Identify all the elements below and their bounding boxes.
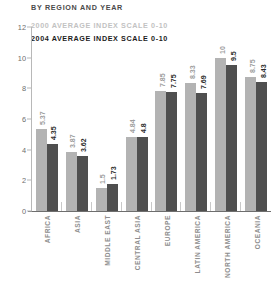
x-axis-category-label: AFRICA [44,215,51,243]
x-axis-category-label: NORTH AMERICA [224,215,231,278]
bar-value-label: 8.75 [248,59,255,73]
bar-2004[interactable]: 3.62 [77,156,88,212]
bar-value-label: 7.75 [169,75,176,89]
bar-group: 3.873.62 [62,27,92,211]
y-axis-tick-label: 10 [0,53,26,62]
bar-group: 8.758.43 [241,27,271,211]
bar-2000[interactable]: 8.33 [185,83,196,211]
x-axis-category: CENTRAL ASIA [122,213,152,289]
bar-value-label: 4.84 [129,119,136,133]
bar-value-label: 7.69 [199,75,206,89]
bar-2004[interactable]: 4.8 [137,137,148,211]
bar-group: 7.857.75 [152,27,182,211]
y-axis-tick-label: 2 [0,176,26,185]
bar-2000[interactable]: 8.75 [245,77,256,211]
bar-2000[interactable]: 7.85 [155,91,166,211]
y-axis-tick-label: 0 [0,207,26,216]
x-axis-category-label: MIDDLE EAST [104,215,111,266]
bar-2004[interactable]: 8.43 [256,82,267,211]
bar-2000[interactable]: 4.84 [126,137,137,211]
bar-value-label: 3.62 [80,138,87,152]
x-axis-category: OCEANIA [242,213,272,289]
chart-root: BY REGION AND YEAR 2000 AVERAGE INDEX SC… [0,0,275,289]
x-axis-category: MIDDLE EAST [92,213,122,289]
bar-2004[interactable]: 7.75 [166,92,177,211]
bar-value-label: 5.37 [39,111,46,125]
bar-2004[interactable]: 9.5 [226,65,237,211]
bar-2000[interactable]: 1.5 [96,188,107,211]
bar-value-label: 9.5 [229,52,236,62]
x-axis-category-label: ASIA [74,215,81,233]
bar-2004[interactable]: 4.35 [47,144,58,211]
bar-value-label: 8.43 [259,64,266,78]
bar-value-label: 7.85 [158,73,165,87]
page-title: BY REGION AND YEAR [31,3,123,12]
bar-2000[interactable]: 10 [215,58,226,211]
x-axis-category: ASIA [62,213,92,289]
bar-value-label: 3.87 [69,134,76,148]
bar-value-label: 4.35 [50,127,57,141]
bar-value-label: 1.73 [110,167,117,181]
bar-group: 4.844.8 [122,27,152,211]
bar-2000[interactable]: 3.87 [66,152,77,211]
bar-value-label: 8.33 [188,66,195,80]
bar-group: 5.374.35 [32,27,62,211]
y-axis-tick-label: 4 [0,145,26,154]
x-axis-category: NORTH AMERICA [212,213,242,289]
plot-area: 024681012 5.374.353.873.621.51.734.844.8… [31,27,271,211]
bar-value-label: 4.8 [140,124,147,134]
bar-groups: 5.374.353.873.621.51.734.844.87.857.758.… [32,27,271,211]
y-axis-tick-label: 8 [0,84,26,93]
bar-2004[interactable]: 1.73 [107,184,118,211]
x-axis-category: EUROPE [152,213,182,289]
bar-group: 1.51.73 [92,27,122,211]
bar-2004[interactable]: 7.69 [196,93,207,211]
y-axis-tick-label: 6 [0,115,26,124]
bar-value-label: 1.5 [99,174,106,184]
x-axis-category-label: CENTRAL ASIA [134,215,141,270]
bar-2000[interactable]: 5.37 [36,129,47,211]
bar-value-label: 10 [218,46,225,54]
x-axis-category-label: OCEANIA [254,215,261,249]
y-axis-tick-label: 12 [0,23,26,32]
x-axis-category: AFRICA [32,213,62,289]
bar-group: 109.5 [211,27,241,211]
bar-group: 8.337.69 [181,27,211,211]
x-axis-category-label: LATIN AMERICA [194,215,201,273]
x-axis-category-labels: AFRICAASIAMIDDLE EASTCENTRAL ASIAEUROPEL… [32,213,272,289]
x-axis-category-label: EUROPE [164,215,171,246]
x-axis-category: LATIN AMERICA [182,213,212,289]
